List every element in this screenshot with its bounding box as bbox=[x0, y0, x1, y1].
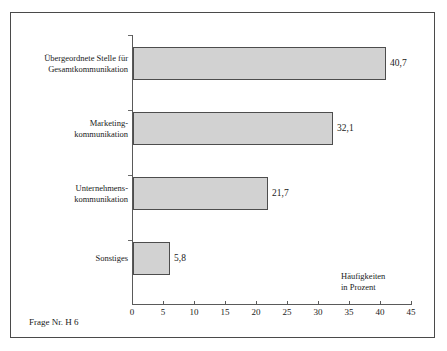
x-axis-tick bbox=[380, 301, 381, 305]
x-axis-tick-label: 5 bbox=[152, 307, 174, 318]
x-axis-tick-label: 20 bbox=[245, 307, 267, 318]
x-axis-tick bbox=[318, 301, 319, 305]
x-axis-tick-label: 15 bbox=[214, 307, 236, 318]
category-label-line: Unternehmens- bbox=[0, 183, 128, 194]
y-axis-tick bbox=[128, 175, 132, 176]
bar-value-label: 40,7 bbox=[390, 58, 407, 69]
chart-plot-area: 0 5 10 15 20 25 30 35 40 45 40,7 32,1 21… bbox=[11, 13, 436, 339]
x-axis-tick-label: 40 bbox=[369, 307, 391, 318]
category-label-line: Übergeordnete Stelle für bbox=[0, 53, 128, 64]
bar-value-label: 5,8 bbox=[174, 253, 186, 264]
x-axis-tick-label: 25 bbox=[276, 307, 298, 318]
category-label-line: kommunikation bbox=[0, 129, 128, 140]
bar-sonstiges[interactable] bbox=[133, 242, 170, 275]
x-axis-tick bbox=[132, 301, 133, 305]
x-axis-tick bbox=[256, 301, 257, 305]
x-axis-tick-label: 10 bbox=[183, 307, 205, 318]
x-axis-title-line: Häufigkeiten bbox=[341, 271, 427, 282]
x-axis-tick bbox=[163, 301, 164, 305]
figure-frame: 0 5 10 15 20 25 30 35 40 45 40,7 32,1 21… bbox=[10, 12, 435, 338]
category-label-line: Gesamtkommunikation bbox=[0, 64, 128, 75]
y-axis-tick bbox=[128, 240, 132, 241]
bar-value-label: 21,7 bbox=[272, 188, 289, 199]
x-axis-tick bbox=[349, 301, 350, 305]
y-axis-tick bbox=[128, 35, 132, 36]
x-axis-tick-label: 35 bbox=[338, 307, 360, 318]
category-label-sonstiges: Sonstiges bbox=[0, 253, 128, 264]
category-label-line: Sonstiges bbox=[0, 253, 128, 264]
x-axis-tick-label: 45 bbox=[400, 307, 422, 318]
category-label-line: kommunikation bbox=[0, 194, 128, 205]
bar-marketingkommunikation[interactable] bbox=[133, 112, 333, 145]
bar-uebergeordnete-stelle[interactable] bbox=[133, 47, 386, 80]
figure-footnote: Frage Nr. H 6 bbox=[29, 317, 79, 328]
x-axis-title: Häufigkeiten in Prozent bbox=[341, 271, 427, 292]
x-axis-tick bbox=[194, 301, 195, 305]
x-axis-line bbox=[132, 304, 412, 305]
bar-value-label: 32,1 bbox=[337, 123, 354, 134]
y-axis-tick bbox=[128, 110, 132, 111]
category-label-uebergeordnete-stelle: Übergeordnete Stelle für Gesamtkommunika… bbox=[0, 53, 128, 74]
x-axis-tick bbox=[287, 301, 288, 305]
bar-unternehmenskommunikation[interactable] bbox=[133, 177, 268, 210]
category-label-unternehmenskommunikation: Unternehmens- kommunikation bbox=[0, 183, 128, 204]
x-axis-tick bbox=[411, 301, 412, 305]
x-axis-title-line: in Prozent bbox=[341, 282, 427, 293]
x-axis-tick-label: 30 bbox=[307, 307, 329, 318]
x-axis-tick-label: 0 bbox=[121, 307, 143, 318]
category-label-line: Marketing- bbox=[0, 118, 128, 129]
x-axis-tick bbox=[225, 301, 226, 305]
category-label-marketingkommunikation: Marketing- kommunikation bbox=[0, 118, 128, 139]
